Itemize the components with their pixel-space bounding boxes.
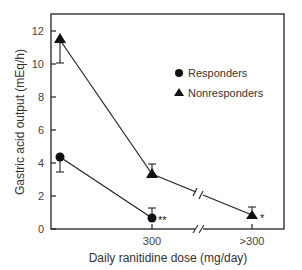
y-tick-label: 2 [38,190,44,202]
x-tick-label: >300 [240,235,265,247]
legend-label-responders: Responders [188,67,248,79]
legend-triangle-icon [174,88,184,96]
x-axis-title: Daily ranitidine dose (mg/day) [89,251,248,265]
triangle-marker-icon [246,210,258,219]
significance-star: ** [158,214,167,226]
legend: Responders Nonresponders [174,67,264,99]
legend-circle-icon [175,69,183,77]
triangle-marker-icon [54,33,66,43]
chart: 0 2 4 6 8 10 12 300 >300 Daily ranitidin… [0,0,302,270]
y-tick-label: 10 [32,58,44,70]
triangle-marker-icon [146,168,158,178]
y-tick-label: 0 [38,223,44,235]
y-tick-label: 4 [38,157,44,169]
plot-frame [51,14,284,229]
circle-marker-icon [56,153,65,162]
x-tick-label: 300 [143,235,161,247]
significance-star: * [260,212,265,224]
series-nonresponders: * [54,33,265,224]
y-tick-label: 8 [38,91,44,103]
legend-label-nonresponders: Nonresponders [188,87,264,99]
y-axis-title: Gastric acid output (mEq/h) [13,49,27,195]
y-tick-label: 6 [38,124,44,136]
circle-marker-icon [148,214,157,223]
y-tick-label: 12 [32,25,44,37]
y-axis [51,31,56,229]
